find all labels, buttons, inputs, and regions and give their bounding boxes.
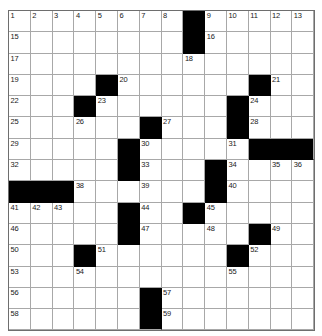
grid-cell[interactable] — [31, 160, 53, 181]
grid-cell[interactable]: 8 — [162, 11, 184, 32]
grid-cell[interactable]: 3 — [53, 11, 75, 32]
grid-cell[interactable]: 46 — [9, 224, 31, 245]
grid-cell[interactable] — [53, 54, 75, 75]
grid-cell[interactable] — [249, 309, 271, 330]
grid-cell[interactable]: 38 — [74, 181, 96, 202]
grid-cell[interactable] — [74, 139, 96, 160]
grid-cell[interactable] — [183, 309, 205, 330]
grid-cell[interactable] — [53, 288, 75, 309]
grid-cell[interactable] — [205, 54, 227, 75]
grid-cell[interactable] — [162, 160, 184, 181]
grid-cell[interactable] — [162, 75, 184, 96]
grid-cell[interactable] — [292, 181, 314, 202]
grid-cell[interactable] — [96, 309, 118, 330]
grid-cell[interactable] — [183, 288, 205, 309]
crossword-grid[interactable]: 1234567891011121315161718192021222324252… — [8, 10, 315, 331]
grid-cell[interactable]: 26 — [74, 117, 96, 138]
grid-cell[interactable] — [96, 181, 118, 202]
grid-cell[interactable] — [96, 32, 118, 53]
grid-cell[interactable] — [205, 75, 227, 96]
grid-cell[interactable] — [31, 245, 53, 266]
grid-cell[interactable] — [53, 75, 75, 96]
grid-cell[interactable] — [183, 160, 205, 181]
grid-cell[interactable] — [271, 267, 293, 288]
grid-cell[interactable] — [227, 203, 249, 224]
grid-cell[interactable]: 51 — [96, 245, 118, 266]
grid-cell[interactable] — [53, 32, 75, 53]
grid-cell[interactable] — [74, 288, 96, 309]
grid-cell[interactable]: 56 — [9, 288, 31, 309]
grid-cell[interactable] — [249, 288, 271, 309]
grid-cell[interactable] — [292, 224, 314, 245]
grid-cell[interactable] — [292, 288, 314, 309]
grid-cell[interactable]: 4 — [74, 11, 96, 32]
grid-cell[interactable] — [31, 224, 53, 245]
grid-cell[interactable] — [53, 160, 75, 181]
grid-cell[interactable] — [31, 117, 53, 138]
grid-cell[interactable]: 50 — [9, 245, 31, 266]
grid-cell[interactable] — [205, 96, 227, 117]
grid-cell[interactable] — [118, 54, 140, 75]
grid-cell[interactable] — [183, 139, 205, 160]
grid-cell[interactable]: 49 — [271, 224, 293, 245]
grid-cell[interactable] — [53, 224, 75, 245]
grid-cell[interactable] — [183, 75, 205, 96]
grid-cell[interactable] — [162, 139, 184, 160]
grid-cell[interactable] — [249, 160, 271, 181]
grid-cell[interactable] — [249, 203, 271, 224]
grid-cell[interactable] — [227, 288, 249, 309]
grid-cell[interactable] — [140, 54, 162, 75]
grid-cell[interactable]: 20 — [118, 75, 140, 96]
grid-cell[interactable] — [227, 75, 249, 96]
grid-cell[interactable] — [227, 54, 249, 75]
grid-cell[interactable] — [31, 75, 53, 96]
grid-cell[interactable] — [292, 245, 314, 266]
grid-cell[interactable] — [74, 54, 96, 75]
grid-cell[interactable] — [227, 32, 249, 53]
grid-cell[interactable] — [74, 32, 96, 53]
grid-cell[interactable]: 48 — [205, 224, 227, 245]
grid-cell[interactable] — [292, 54, 314, 75]
grid-cell[interactable] — [74, 203, 96, 224]
grid-cell[interactable]: 42 — [31, 203, 53, 224]
grid-cell[interactable] — [118, 32, 140, 53]
grid-cell[interactable]: 53 — [9, 267, 31, 288]
grid-cell[interactable] — [31, 54, 53, 75]
grid-cell[interactable]: 43 — [53, 203, 75, 224]
grid-cell[interactable] — [183, 117, 205, 138]
grid-cell[interactable]: 28 — [249, 117, 271, 138]
grid-cell[interactable] — [227, 224, 249, 245]
grid-cell[interactable] — [205, 139, 227, 160]
grid-cell[interactable] — [118, 117, 140, 138]
grid-cell[interactable] — [227, 309, 249, 330]
grid-cell[interactable]: 29 — [9, 139, 31, 160]
grid-cell[interactable] — [31, 96, 53, 117]
grid-cell[interactable]: 31 — [227, 139, 249, 160]
grid-cell[interactable]: 11 — [249, 11, 271, 32]
grid-cell[interactable] — [292, 267, 314, 288]
grid-cell[interactable] — [162, 54, 184, 75]
grid-cell[interactable]: 36 — [292, 160, 314, 181]
grid-cell[interactable] — [140, 96, 162, 117]
grid-cell[interactable] — [96, 160, 118, 181]
grid-cell[interactable]: 7 — [140, 11, 162, 32]
grid-cell[interactable] — [292, 117, 314, 138]
grid-cell[interactable]: 16 — [205, 32, 227, 53]
grid-cell[interactable]: 34 — [227, 160, 249, 181]
grid-cell[interactable] — [74, 75, 96, 96]
grid-cell[interactable] — [271, 54, 293, 75]
grid-cell[interactable] — [118, 96, 140, 117]
grid-cell[interactable] — [205, 245, 227, 266]
grid-cell[interactable]: 2 — [31, 11, 53, 32]
grid-cell[interactable] — [96, 54, 118, 75]
grid-cell[interactable] — [162, 245, 184, 266]
grid-cell[interactable]: 44 — [140, 203, 162, 224]
grid-cell[interactable]: 59 — [162, 309, 184, 330]
grid-cell[interactable] — [31, 288, 53, 309]
grid-cell[interactable] — [249, 32, 271, 53]
grid-cell[interactable] — [162, 32, 184, 53]
grid-cell[interactable]: 18 — [183, 54, 205, 75]
grid-cell[interactable] — [96, 203, 118, 224]
grid-cell[interactable] — [53, 267, 75, 288]
grid-cell[interactable]: 19 — [9, 75, 31, 96]
